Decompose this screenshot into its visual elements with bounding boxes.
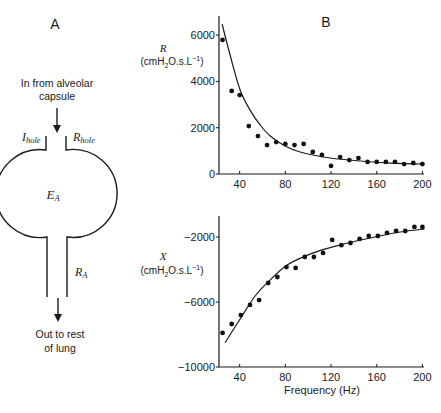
x-tick-label: 160 <box>368 371 386 383</box>
data-point <box>339 243 344 248</box>
elastance-label: EA <box>45 187 60 203</box>
r-hole-label: Rhole <box>72 130 95 145</box>
data-point <box>283 142 288 147</box>
panel-a-label: A <box>50 16 60 32</box>
x-axis-units: (cmH2O.s.L−1) <box>140 264 203 278</box>
y-tick-label: 0 <box>209 168 215 180</box>
y-tick-label: 2000 <box>191 122 215 134</box>
data-point <box>246 124 251 129</box>
inlet-label-line2: capsule <box>39 90 75 102</box>
x-tick-label: 80 <box>279 371 291 383</box>
panel-a-diagram: A In from alveolar capsule Ihole Rhole E… <box>0 16 117 354</box>
y-tick-label: −6000 <box>184 296 215 308</box>
data-point <box>393 160 398 165</box>
data-point <box>220 38 225 43</box>
data-point <box>284 265 289 270</box>
data-point <box>237 93 242 98</box>
data-point <box>312 255 317 260</box>
data-point <box>357 237 362 242</box>
data-point <box>301 142 306 147</box>
airway-resistance-label: RA <box>74 265 88 280</box>
x-tick-label: 120 <box>322 371 340 383</box>
outlet-label-line2: of lung <box>44 342 76 354</box>
x-tick-label: 80 <box>279 178 291 190</box>
y-tick-label: 6000 <box>191 29 215 41</box>
data-point <box>330 238 335 243</box>
data-point <box>256 134 261 139</box>
r-axis-symbol: R <box>159 42 167 54</box>
x-tick-label: 160 <box>368 178 386 190</box>
data-point <box>310 150 315 155</box>
x-tick-label: 40 <box>234 178 246 190</box>
x-tick-label: 200 <box>413 371 431 383</box>
data-point <box>220 331 225 336</box>
x-axis-symbol: X <box>159 250 168 262</box>
data-point <box>321 251 326 256</box>
data-point <box>266 281 271 286</box>
data-point <box>412 225 417 230</box>
data-point <box>293 265 298 270</box>
reactance-chart: X (cmH2O.s.L−1) −10000−6000−200040801201… <box>140 216 431 383</box>
data-point <box>229 322 234 327</box>
frequency-axis-label: Frequency (Hz) <box>284 384 360 396</box>
r-axis-units: (cmH2O.s.L−1) <box>140 55 203 69</box>
data-point <box>366 234 371 239</box>
data-point <box>265 143 270 148</box>
data-point <box>257 298 262 303</box>
inlet-label-line1: In from alveolar <box>21 77 94 89</box>
x-axes: −10000−6000−20004080120160200 <box>178 216 432 383</box>
x-tick-label: 200 <box>413 178 431 190</box>
i-hole-label: Ihole <box>21 130 41 145</box>
y-tick-label: 4000 <box>191 75 215 87</box>
data-point <box>320 153 325 158</box>
data-point <box>403 229 408 234</box>
data-point <box>229 88 234 93</box>
data-point <box>347 158 352 163</box>
panel-b-label: B <box>321 14 330 30</box>
data-point <box>374 160 379 165</box>
r-fit-curve <box>222 24 424 164</box>
data-point <box>274 140 279 145</box>
x-tick-label: 40 <box>234 371 246 383</box>
data-point <box>275 275 280 280</box>
data-point <box>238 313 243 318</box>
data-point <box>338 155 343 160</box>
data-point <box>302 255 307 260</box>
x-fit-curve <box>225 229 424 343</box>
r-data-points <box>220 38 425 169</box>
x-tick-label: 120 <box>322 178 340 190</box>
data-point <box>420 225 425 230</box>
data-point <box>420 162 425 167</box>
resistance-chart: R (cmH2O.s.L−1) 020004000600040801201602… <box>140 16 431 190</box>
data-point <box>385 231 390 236</box>
data-point <box>383 160 388 165</box>
data-point <box>348 241 353 246</box>
data-point <box>411 161 416 166</box>
y-tick-label: −10000 <box>178 361 215 373</box>
data-point <box>356 156 361 161</box>
data-point <box>292 143 297 148</box>
data-point <box>329 163 334 168</box>
data-point <box>394 229 399 234</box>
data-point <box>248 303 253 308</box>
data-point <box>365 160 370 165</box>
alveolus-outline <box>0 136 117 297</box>
y-tick-label: −2000 <box>184 231 215 243</box>
figure: A In from alveolar capsule Ihole Rhole E… <box>0 0 441 413</box>
x-data-points <box>220 225 425 336</box>
data-point <box>402 162 407 167</box>
data-point <box>375 234 380 239</box>
outlet-label-line1: Out to rest <box>35 328 84 340</box>
